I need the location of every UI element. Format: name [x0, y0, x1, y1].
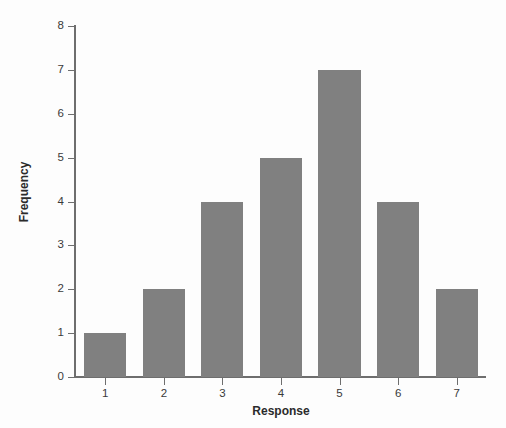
y-axis-tick-mark [68, 26, 75, 27]
bar [143, 289, 185, 377]
y-axis-tick-label-wrap: 4 [8, 196, 64, 208]
bar [84, 333, 126, 377]
x-axis-tick-mark [281, 378, 282, 385]
y-axis-tick-label: 1 [14, 327, 64, 339]
x-axis-tick-label: 1 [75, 388, 135, 400]
y-axis-tick-label-wrap: 6 [8, 108, 64, 120]
x-axis-tick-label: 3 [192, 388, 252, 400]
y-axis-tick-label-wrap: 2 [8, 283, 64, 295]
bar [318, 70, 360, 377]
bar [436, 289, 478, 377]
x-axis-title: Response [76, 404, 486, 418]
y-axis-tick-label-wrap: 3 [8, 239, 64, 251]
y-axis-tick-mark [68, 158, 75, 159]
y-axis-tick-label: 0 [14, 371, 64, 383]
y-axis-tick-mark [68, 289, 75, 290]
y-axis-tick-mark [68, 70, 75, 71]
y-axis-tick-label: 6 [14, 108, 64, 120]
y-axis-tick-label-wrap: 5 [8, 152, 64, 164]
y-axis-tick-mark [68, 245, 75, 246]
bar [260, 158, 302, 377]
x-axis-tick-label: 4 [251, 388, 311, 400]
x-axis-tick-label: 7 [427, 388, 487, 400]
y-axis-tick-label-wrap: 1 [8, 327, 64, 339]
x-axis-tick-mark [105, 378, 106, 385]
y-axis-tick-mark [68, 333, 75, 334]
bar-chart-figure: Frequency 012345678 1234567 Response [0, 0, 506, 428]
x-axis-tick-mark [398, 378, 399, 385]
x-axis-tick-label: 2 [134, 388, 194, 400]
x-axis-tick-mark [457, 378, 458, 385]
y-axis-tick-mark [68, 377, 75, 378]
plot-area [76, 26, 486, 377]
y-axis-tick-label: 5 [14, 152, 64, 164]
bar [201, 202, 243, 378]
y-axis-tick-mark [68, 202, 75, 203]
x-axis-tick-label: 5 [310, 388, 370, 400]
x-axis-tick-mark [340, 378, 341, 385]
y-axis-tick-label: 2 [14, 283, 64, 295]
y-axis-tick-label-wrap: 0 [8, 371, 64, 383]
y-axis-tick-label: 4 [14, 196, 64, 208]
x-axis-tick-mark [222, 378, 223, 385]
y-axis-tick-label-wrap: 8 [8, 20, 64, 32]
y-axis-tick-label: 3 [14, 239, 64, 251]
y-axis-tick-label-wrap: 7 [8, 64, 64, 76]
y-axis-tick-mark [68, 114, 75, 115]
y-axis-title: Frequency [17, 132, 31, 252]
y-axis-tick-label: 8 [14, 20, 64, 32]
bar [377, 202, 419, 378]
x-axis-tick-label: 6 [368, 388, 428, 400]
x-axis-tick-mark [164, 378, 165, 385]
y-axis-tick-label: 7 [14, 64, 64, 76]
